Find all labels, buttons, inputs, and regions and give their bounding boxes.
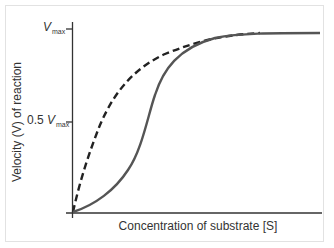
tick-symbol: V <box>43 20 51 34</box>
solid-curve <box>73 33 320 212</box>
y-tick-label-half-vmax: 0.5 Vmax <box>27 113 69 128</box>
dashed-curve <box>73 33 260 212</box>
x-axis-label: Concentration of substrate [S] <box>119 219 278 233</box>
y-tick-label-vmax: Vmax <box>43 20 65 35</box>
tick-symbol: V <box>47 113 55 127</box>
tick-subscript: max <box>52 28 65 35</box>
y-axis-label: Velocity (V) of reaction <box>10 62 24 182</box>
tick-subscript: max <box>56 121 69 128</box>
tick-prefix: 0.5 <box>27 113 47 127</box>
